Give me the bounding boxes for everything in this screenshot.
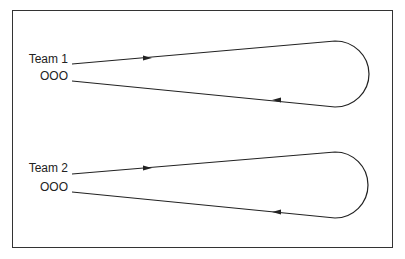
arrow-right-icon	[143, 56, 152, 61]
arrow-right-icon	[143, 166, 152, 171]
team-2-loop	[72, 152, 368, 218]
team-1-loop	[72, 41, 369, 107]
arrow-left-icon	[272, 210, 281, 215]
drill-paths	[0, 0, 405, 259]
